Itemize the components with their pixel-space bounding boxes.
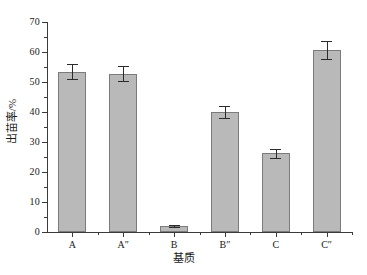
bar (58, 72, 86, 233)
y-axis-tick-label: 70 (0, 17, 40, 27)
x-axis-tick (72, 233, 73, 237)
bar (211, 112, 239, 232)
x-axis-tick (225, 233, 226, 237)
error-bar-cap-lower (270, 158, 281, 159)
y-axis-tick-label: 10 (0, 197, 40, 207)
x-axis-minor-tick (250, 233, 251, 235)
error-bar-cap-lower (169, 227, 180, 228)
x-axis-tick-label: A (49, 239, 95, 251)
x-axis-tick-label: C (253, 239, 299, 251)
x-axis-tick-label: B″ (202, 239, 248, 251)
x-axis-tick (327, 233, 328, 237)
bar-chart-figure: 出苗率/% 010203040506070 AA″BB″CC″ 基质 (0, 0, 367, 275)
x-axis-tick (123, 233, 124, 237)
x-axis-tick-label: A″ (100, 239, 146, 251)
x-axis-title: 基质 (0, 252, 367, 265)
x-axis-tick (276, 233, 277, 237)
y-axis-tick-label: 60 (0, 47, 40, 57)
y-axis-tick-label: 30 (0, 137, 40, 147)
error-bar-cap-upper (270, 149, 281, 150)
error-bar-stem (72, 64, 73, 79)
y-axis-tick-label: 0 (0, 227, 40, 237)
bar (262, 153, 290, 232)
y-axis-tick-label: 50 (0, 77, 40, 87)
x-axis-minor-tick (200, 233, 201, 235)
error-bar-cap-upper (321, 41, 332, 42)
x-axis-tick-label: B (151, 239, 197, 251)
x-axis-tick (174, 233, 175, 237)
x-axis-minor-tick (98, 233, 99, 235)
error-bar-cap-lower (321, 59, 332, 60)
error-bar-stem (327, 41, 328, 59)
error-bar-cap-lower (118, 81, 129, 82)
y-axis-tick-label: 40 (0, 107, 40, 117)
x-axis-minor-tick (301, 233, 302, 235)
y-axis-line (47, 22, 48, 233)
bar (313, 50, 341, 232)
error-bar-cap-upper (118, 66, 129, 67)
error-bar-cap-lower (67, 79, 78, 80)
x-axis-tick-label: C″ (304, 239, 350, 251)
error-bar-stem (225, 106, 226, 118)
y-axis-tick-label: 20 (0, 167, 40, 177)
x-axis-minor-tick (352, 233, 353, 235)
error-bar-stem (123, 66, 124, 81)
bar (109, 74, 137, 232)
error-bar-cap-upper (219, 106, 230, 107)
x-axis-minor-tick (149, 233, 150, 235)
error-bar-stem (276, 149, 277, 158)
error-bar-cap-lower (219, 118, 230, 119)
error-bar-cap-upper (67, 64, 78, 65)
error-bar-cap-upper (169, 225, 180, 226)
